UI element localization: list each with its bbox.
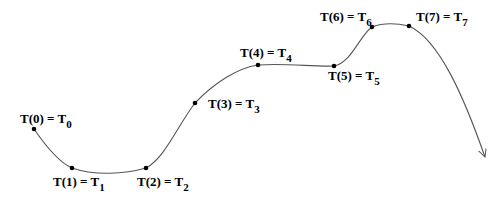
control-point-2 bbox=[144, 166, 149, 171]
point-label-subscript: 3 bbox=[254, 103, 260, 115]
point-label-subscript: 2 bbox=[183, 181, 189, 193]
point-label-4: T(4) = T4 bbox=[240, 45, 292, 64]
control-point-0 bbox=[32, 127, 37, 132]
point-label-subscript: 4 bbox=[286, 52, 292, 64]
control-point-1 bbox=[70, 166, 75, 171]
point-label-5: T(5) = T5 bbox=[328, 68, 380, 87]
point-label-7: T(7) = T7 bbox=[416, 9, 468, 28]
point-label-3: T(3) = T3 bbox=[208, 96, 260, 115]
curve-diagram: T(0) = T0T(1) = T1T(2) = T2T(3) = T3T(4)… bbox=[0, 0, 504, 204]
point-label-1: T(1) = T1 bbox=[53, 174, 105, 193]
point-label-subscript: 1 bbox=[99, 181, 105, 193]
control-point-4 bbox=[256, 63, 261, 68]
point-label-6: T(6) = T6 bbox=[320, 9, 372, 28]
control-point-7 bbox=[407, 24, 412, 29]
point-label-subscript: 6 bbox=[366, 16, 372, 28]
point-label-subscript: 7 bbox=[462, 16, 468, 28]
point-label-2: T(2) = T2 bbox=[137, 174, 189, 193]
control-point-3 bbox=[193, 101, 198, 106]
point-label-0: T(0) = T0 bbox=[20, 111, 72, 130]
point-label-subscript: 0 bbox=[66, 118, 72, 130]
point-label-subscript: 5 bbox=[374, 75, 380, 87]
